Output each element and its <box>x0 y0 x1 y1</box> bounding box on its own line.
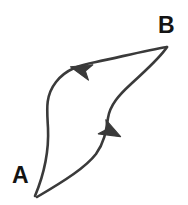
diagram-canvas: A B <box>0 0 188 205</box>
node-label-a: A <box>12 164 29 187</box>
node-label-b: B <box>158 14 175 37</box>
return-path-b-to-a <box>37 47 167 197</box>
